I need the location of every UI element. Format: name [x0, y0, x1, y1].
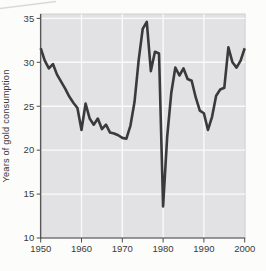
x-tick-label: 1950 [30, 243, 51, 254]
y-tick-label: 20 [24, 144, 35, 155]
y-tick-label: 35 [24, 13, 35, 24]
gold-consumption-line-chart: 195019601970198019902000 101520253035 Ye… [0, 0, 266, 271]
y-axis-label: Years of gold consumption [1, 70, 11, 183]
x-tick-label: 1990 [193, 243, 214, 254]
y-tick-labels: 101520253035 [24, 13, 35, 244]
x-tick-label: 1980 [153, 243, 174, 254]
scan-artifact [0, 2, 56, 9]
y-tick-label: 15 [24, 188, 35, 199]
chart-figure: 195019601970198019902000 101520253035 Ye… [0, 0, 266, 271]
x-tick-label: 1960 [71, 243, 92, 254]
y-tick-label: 30 [24, 57, 35, 68]
plot-area [40, 14, 245, 238]
y-tick-label: 10 [24, 232, 35, 243]
x-tick-labels: 195019601970198019902000 [30, 243, 255, 254]
x-tick-label: 2000 [234, 243, 255, 254]
x-tick-label: 1970 [112, 243, 133, 254]
y-tick-label: 25 [24, 101, 35, 112]
